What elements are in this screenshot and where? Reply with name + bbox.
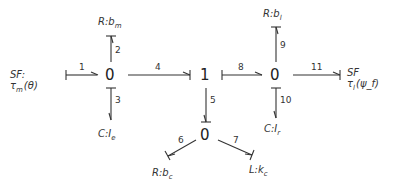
zero-junction-left: 0 <box>105 67 115 83</box>
sf-input-label: SF: τm (θ) <box>10 69 38 96</box>
bond-number-5: 5 <box>210 95 216 105</box>
zero-junction-bottom: 0 <box>200 127 210 143</box>
r-bl-label: R:bl <box>263 8 282 24</box>
bond-number-7: 7 <box>233 135 239 145</box>
sf-output-label: SF τl (ψ_f) <box>347 67 379 94</box>
l-kc-label: L:kc <box>249 164 268 180</box>
bond-number-8: 8 <box>238 62 244 72</box>
bond-graph-lines <box>0 0 394 188</box>
r-bc-label: R:bc <box>152 167 173 183</box>
bond-number-3: 3 <box>115 95 121 105</box>
bond-number-6: 6 <box>178 135 184 145</box>
bond-number-4: 4 <box>155 62 161 72</box>
c-ie-label: C:Ie <box>98 128 116 144</box>
c-ir-label: C:Ir <box>264 123 280 139</box>
zero-junction-right: 0 <box>270 67 280 83</box>
bond-number-9: 9 <box>280 40 286 50</box>
bond-number-11: 11 <box>311 62 322 72</box>
bond-number-1: 1 <box>79 62 85 72</box>
r-bm-label: R:bm <box>98 16 122 32</box>
bond-number-2: 2 <box>115 45 121 55</box>
one-junction: 1 <box>200 67 210 83</box>
bond-number-10: 10 <box>280 95 291 105</box>
